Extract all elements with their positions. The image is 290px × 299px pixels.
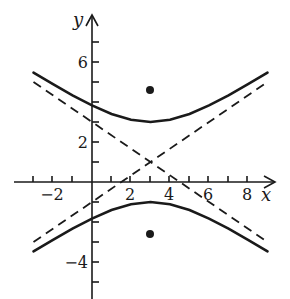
- focus-point-lower: [146, 230, 154, 238]
- x-tick-label-4: 4: [164, 185, 174, 204]
- x-tick-label-8: 8: [242, 185, 252, 204]
- x-tick-label-neg2: −2: [40, 185, 64, 204]
- y-tick-label-neg4: −4: [64, 253, 88, 272]
- x-tick-label-2: 2: [125, 185, 135, 204]
- hyperbola-lower-branch: [34, 202, 268, 251]
- x-axis-ticks: [33, 176, 247, 182]
- y-tick-label-2: 2: [78, 133, 88, 152]
- asymptotes: [34, 82, 268, 242]
- y-axis-label: y: [72, 9, 84, 30]
- focus-point-upper: [146, 86, 154, 94]
- hyperbola-figure: −2 2 4 6 8 6 2 −4 x y: [0, 0, 290, 299]
- chart-canvas: −2 2 4 6 8 6 2 −4 x y: [0, 0, 290, 299]
- y-axis-ticks: [92, 42, 99, 282]
- y-tick-label-6: 6: [78, 53, 88, 72]
- hyperbola-upper-branch: [34, 73, 268, 122]
- x-axis-label: x: [261, 184, 271, 205]
